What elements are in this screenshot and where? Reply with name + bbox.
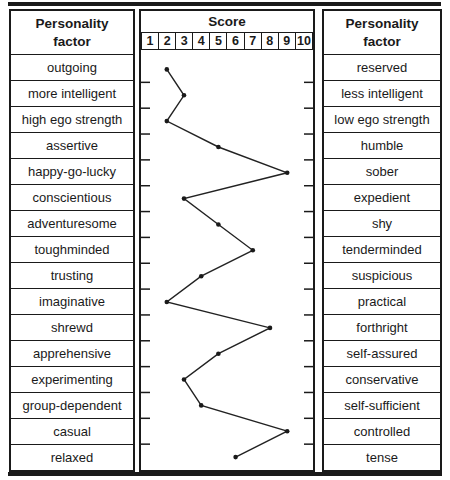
score-scale-number: 5 xyxy=(209,33,226,49)
left-factor-rows: outgoingmore intelligenthigh ego strengt… xyxy=(11,55,133,470)
score-scale-number: 3 xyxy=(175,33,192,49)
left-factor-label: casual xyxy=(11,419,133,445)
right-factor-rows: reservedless intelligentlow ego strength… xyxy=(324,55,440,470)
top-rule xyxy=(8,2,441,6)
right-factor-label: humble xyxy=(324,133,440,159)
right-factor-label: tenderminded xyxy=(324,237,440,263)
score-scale-number: 9 xyxy=(278,33,295,49)
bottom-rule xyxy=(8,472,442,477)
left-factor-label: apprehensive xyxy=(11,341,133,367)
score-scale-number: 6 xyxy=(226,33,243,49)
right-factor-label: tense xyxy=(324,445,440,470)
left-factor-label: trusting xyxy=(11,263,133,289)
score-scale-number: 7 xyxy=(244,33,261,49)
left-factor-table: Personality factor outgoingmore intellig… xyxy=(9,9,135,472)
right-factor-label: reserved xyxy=(324,55,440,81)
right-table-header: Personality factor xyxy=(324,11,440,55)
right-factor-table: Personality factor reservedless intellig… xyxy=(322,9,442,472)
left-factor-label: toughminded xyxy=(11,237,133,263)
left-table-header: Personality factor xyxy=(11,11,133,55)
score-scale-number: 1 xyxy=(142,33,158,49)
score-scale-number: 10 xyxy=(295,33,312,49)
score-scale-row: 12345678910 xyxy=(141,32,313,50)
right-factor-label: self-sufficient xyxy=(324,393,440,419)
score-scale-number: 8 xyxy=(261,33,278,49)
left-factor-label: group-dependent xyxy=(11,393,133,419)
left-factor-label: high ego strength xyxy=(11,107,133,133)
right-factor-label: forthright xyxy=(324,315,440,341)
right-factor-label: self-assured xyxy=(324,341,440,367)
left-factor-label: experimenting xyxy=(11,367,133,393)
right-factor-label: shy xyxy=(324,211,440,237)
left-factor-label: imaginative xyxy=(11,289,133,315)
score-header: Score xyxy=(141,11,313,32)
left-factor-label: more intelligent xyxy=(11,81,133,107)
score-scale-number: 2 xyxy=(158,33,175,49)
score-column: Score 12345678910 xyxy=(139,9,315,472)
left-factor-label: conscientious xyxy=(11,185,133,211)
left-factor-label: happy-go-lucky xyxy=(11,159,133,185)
right-factor-label: sober xyxy=(324,159,440,185)
right-factor-label: controlled xyxy=(324,419,440,445)
right-factor-label: practical xyxy=(324,289,440,315)
left-factor-label: outgoing xyxy=(11,55,133,81)
left-factor-label: adventuresome xyxy=(11,211,133,237)
left-factor-label: relaxed xyxy=(11,445,133,470)
right-factor-label: conservative xyxy=(324,367,440,393)
left-factor-label: shrewd xyxy=(11,315,133,341)
score-scale-number: 4 xyxy=(192,33,209,49)
right-factor-label: low ego strength xyxy=(324,107,440,133)
right-factor-label: expedient xyxy=(324,185,440,211)
left-factor-label: assertive xyxy=(11,133,133,159)
right-factor-label: suspicious xyxy=(324,263,440,289)
right-factor-label: less intelligent xyxy=(324,81,440,107)
